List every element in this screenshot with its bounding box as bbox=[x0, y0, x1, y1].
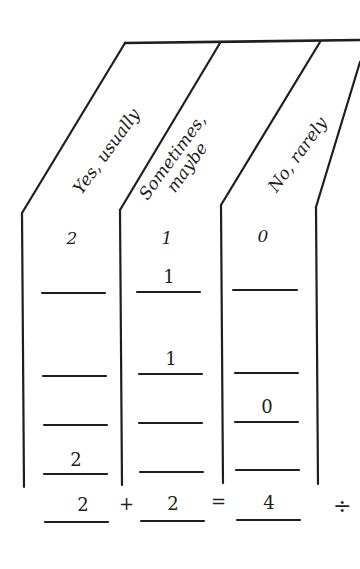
row4-col1-entry[interactable]: 2 bbox=[44, 449, 108, 470]
divide-sign: ÷ bbox=[333, 494, 351, 519]
equals-sign: = bbox=[211, 491, 226, 512]
plus-sign: + bbox=[119, 493, 134, 514]
row2-col2-entry[interactable]: 1 bbox=[139, 348, 203, 369]
total-sum[interactable]: 4 bbox=[237, 492, 301, 513]
row1-col2-entry[interactable]: 1 bbox=[137, 266, 201, 287]
row3-col3-entry[interactable]: 0 bbox=[235, 396, 299, 417]
total-col2[interactable]: 2 bbox=[141, 493, 205, 514]
score-yes: 2 bbox=[57, 228, 87, 248]
score-sometimes: 1 bbox=[152, 228, 182, 248]
score-no: 0 bbox=[248, 226, 278, 246]
total-col1[interactable]: 2 bbox=[51, 494, 115, 515]
